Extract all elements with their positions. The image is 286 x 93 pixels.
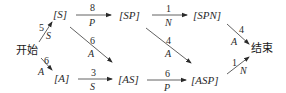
node-SPN: [SPN] [193,9,221,21]
edge-label-weight: 6 [90,36,95,46]
edge-label-weight: 5 [39,23,44,33]
edge-label-weight: 1 [166,4,171,14]
edge-label-weight: 6 [165,69,170,79]
edge-label-symbol: S [90,82,95,92]
edge-label-weight: 4 [239,25,244,35]
edge-label-symbol: A [165,49,171,59]
edge-label-weight: 3 [91,68,96,78]
edge-label-symbol: P [164,83,170,93]
edge-label-symbol: N [240,66,247,76]
edge-label-symbol: S [46,31,51,41]
edge-label-weight: 1 [232,58,237,68]
state-transition-diagram: 开始 [S] [A] [SP] [AS] [SPN] [ASP] 结束 5 S … [0,0,286,93]
edge-label-weight: 8 [90,3,95,13]
edge-label-symbol: N [165,18,172,28]
node-AS: [AS] [118,73,139,85]
edge-label-weight: 6 [44,56,49,66]
edges-layer [0,0,286,93]
node-A: [A] [54,72,69,84]
node-SP: [SP] [119,9,140,21]
edge-label-symbol: A [88,49,94,59]
node-start: 开始 [16,45,38,57]
node-ASP: [ASP] [191,74,219,86]
edge-label-weight: 4 [166,36,171,46]
node-S: [S] [53,8,67,20]
edge-label-symbol: A [38,67,44,77]
edge-label-symbol: P [89,18,95,28]
edge-label-symbol: A [231,37,237,47]
node-end: 结束 [251,43,273,55]
